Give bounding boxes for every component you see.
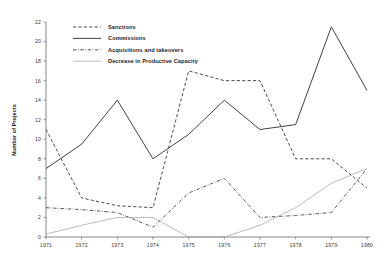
y-tick-label: 4 [38,195,41,201]
y-tick-label: 0 [38,234,41,240]
y-tick-label: 14 [35,97,41,103]
y-axis-title: Number of Projects [11,104,17,156]
legend-label-commissions: Commissions [108,35,146,41]
y-tick-label: 22 [35,19,41,25]
y-tick-label: 12 [35,117,41,123]
x-tick-label: 1977 [254,242,266,248]
y-tick-label: 20 [35,38,41,44]
line-chart: 0246810121416182022 Number of Projects 1… [0,0,387,264]
x-tick-label: 1978 [289,242,301,248]
x-tick-label: 1972 [75,242,87,248]
y-tick-label: 6 [38,175,41,181]
chart-background [0,0,387,264]
y-tick-label: 18 [35,58,41,64]
x-tick-label: 1973 [111,242,123,248]
y-tick-label: 16 [35,78,41,84]
x-tick-label: 1971 [40,242,52,248]
y-tick-label: 2 [38,214,41,220]
x-tick-label: 1975 [182,242,194,248]
x-tick-label: 1980 [361,242,373,248]
legend-label-sanctions: Sanctions [108,24,136,30]
legend-label-decrease-in-productive-capacity: Decrease in Productive Capacity [108,58,199,64]
x-tick-label: 1979 [325,242,337,248]
x-tick-label: 1974 [147,242,159,248]
x-tick-label: 1976 [218,242,230,248]
legend-label-acquisitions-and-takeovers: Acquisitions and takeovers [108,47,183,53]
y-tick-label: 8 [38,156,41,162]
y-tick-label: 10 [35,136,41,142]
